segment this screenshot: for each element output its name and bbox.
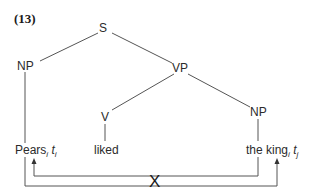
syntax-tree-diagram: (13) S NP VP V NP Pearsi ti liked the ki… <box>0 0 312 196</box>
edge-s-vp <box>112 33 172 63</box>
leaf-object: the kingi tj <box>246 144 298 159</box>
node-v: V <box>101 111 109 123</box>
node-vp: VP <box>172 62 188 74</box>
edge-vp-v <box>112 74 174 110</box>
leaf-subject: Pearsi ti <box>15 144 57 159</box>
subject-word: Pears <box>15 143 46 157</box>
example-number: (13) <box>14 11 36 27</box>
node-np-subject: NP <box>17 60 34 72</box>
subject-index: i <box>46 150 48 159</box>
movement-line-inner <box>34 157 258 176</box>
object-word: the king <box>246 143 288 157</box>
edge-vp-np <box>188 74 250 107</box>
object-index: i <box>288 150 290 159</box>
leaf-verb: liked <box>94 144 119 156</box>
tree-edges <box>0 0 312 196</box>
node-np-object: NP <box>250 106 267 118</box>
node-s: S <box>99 22 107 34</box>
object-trace-index: j <box>297 150 299 159</box>
subject-trace-index: i <box>55 150 57 159</box>
crossing-mark: X <box>149 173 160 190</box>
edge-s-np <box>40 33 98 61</box>
